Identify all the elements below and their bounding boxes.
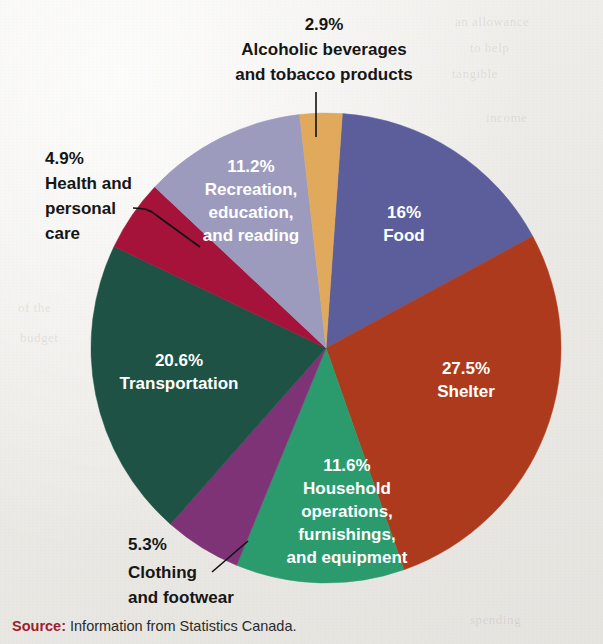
slice-name-household-1: Household xyxy=(303,479,391,498)
slice-name-shelter: Shelter xyxy=(437,382,495,401)
slice-value-clothing: 5.3% xyxy=(128,535,167,554)
slice-value-shelter: 27.5% xyxy=(442,359,490,378)
slice-value-health: 4.9% xyxy=(45,149,84,168)
slice-value-recreation: 11.2% xyxy=(227,157,274,176)
pie-chart: 16% Food 27.5% Shelter 11.6% Household o… xyxy=(0,0,603,644)
source-note: Source: Information from Statistics Cana… xyxy=(12,618,297,634)
slice-name-alcohol-2: and tobacco products xyxy=(235,65,413,84)
slice-name-health-2: personal xyxy=(45,199,116,218)
slice-name-transportation: Transportation xyxy=(119,374,238,393)
slice-name-household-2: operations, xyxy=(301,502,393,521)
source-text: Information from Statistics Canada. xyxy=(70,618,296,634)
slice-name-recreation-2: education, xyxy=(208,203,293,222)
source-label: Source: xyxy=(12,618,66,634)
slice-name-health-3: care xyxy=(45,224,80,243)
slice-value-transportation: 20.6% xyxy=(155,351,203,370)
slice-name-food: Food xyxy=(383,226,425,245)
figure-page: an allowance to help tangible of the bud… xyxy=(0,0,603,644)
slice-name-alcohol-1: Alcoholic beverages xyxy=(241,40,406,59)
slice-name-health-1: Health and xyxy=(45,174,132,193)
slice-value-household: 11.6% xyxy=(323,456,370,475)
slice-name-household-4: and equipment xyxy=(287,548,408,567)
slice-name-household-3: furnishings, xyxy=(298,525,395,544)
slice-value-alcohol: 2.9% xyxy=(305,15,344,34)
slice-value-food: 16% xyxy=(387,203,421,222)
slice-name-clothing-1: Clothing xyxy=(128,563,197,582)
slice-name-recreation-1: Recreation, xyxy=(205,180,298,199)
slice-name-clothing-2: and footwear xyxy=(128,588,234,607)
slice-name-recreation-3: and reading xyxy=(203,226,299,245)
